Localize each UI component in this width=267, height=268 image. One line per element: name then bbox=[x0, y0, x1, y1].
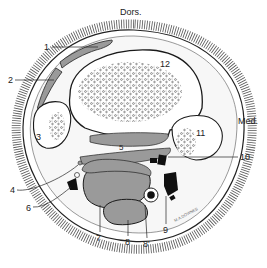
orientation-medial: Med. bbox=[238, 116, 258, 126]
cross-section-diagram: Dors. Med. 1 2 3 4 5 6 7 8 8' 9 10 11 12… bbox=[0, 0, 267, 268]
label-12: 12 bbox=[160, 59, 170, 69]
label-6: 6 bbox=[26, 203, 31, 213]
label-2: 2 bbox=[8, 75, 13, 85]
label-7: 7 bbox=[96, 233, 101, 243]
structure-nerve bbox=[78, 161, 82, 165]
structure-9-center bbox=[147, 191, 155, 199]
structure-11-cancellous bbox=[176, 128, 196, 156]
structure-10-vessel bbox=[157, 154, 167, 165]
label-8: 8 bbox=[125, 237, 130, 247]
label-5: 5 bbox=[119, 143, 124, 152]
structure-3-cancellous bbox=[49, 112, 65, 140]
structure-12-cancellous bbox=[78, 62, 182, 122]
label-9: 9 bbox=[163, 225, 168, 235]
orientation-dorsal: Dors. bbox=[120, 7, 142, 17]
label-8-prime: 8' bbox=[143, 239, 150, 249]
label-3: 3 bbox=[36, 132, 41, 142]
label-10: 10 bbox=[240, 152, 250, 162]
structure-8-muscle bbox=[103, 199, 147, 224]
label-11: 11 bbox=[196, 128, 205, 138]
structure-upper-band bbox=[90, 133, 168, 147]
structure-4-small bbox=[75, 173, 80, 178]
label-1: 1 bbox=[44, 42, 49, 52]
structure-10-vessel-2 bbox=[150, 158, 157, 163]
label-4: 4 bbox=[10, 185, 15, 195]
